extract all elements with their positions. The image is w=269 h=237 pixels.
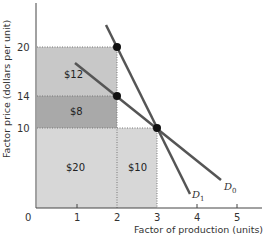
area-label-10: $10	[128, 162, 147, 173]
x-axis-label: Factor of production (units)	[134, 224, 263, 235]
x-tick-5: 5	[234, 212, 240, 223]
point-2-20	[113, 43, 121, 51]
point-3-10	[153, 124, 161, 132]
label-d0: D0	[223, 181, 237, 195]
label-d1: D1	[191, 189, 205, 203]
y-tick-20: 20	[17, 42, 30, 53]
chart: $12 $8 $20 $10 20 14 10 0 1 2 3 4 5 Fact…	[0, 0, 269, 237]
y-axis-label: Factor price (dollars per unit)	[1, 20, 12, 158]
area-label-12: $12	[64, 69, 83, 80]
y-tick-10: 10	[17, 123, 30, 134]
area-label-20: $20	[66, 162, 85, 173]
area-label-8: $8	[70, 106, 83, 117]
x-tick-0: 0	[25, 212, 31, 223]
y-tick-14: 14	[17, 91, 30, 102]
x-tick-3: 3	[154, 212, 160, 223]
x-tick-4: 4	[194, 212, 200, 223]
point-2-14	[113, 92, 121, 100]
x-tick-2: 2	[114, 212, 120, 223]
x-tick-1: 1	[74, 212, 80, 223]
